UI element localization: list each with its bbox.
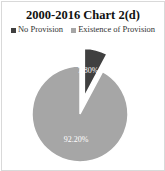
slice-label-existence-of-provision: 92.20% [64, 135, 89, 144]
slice-label-no-provision: 7.80% [78, 66, 99, 75]
pie-chart: 7.80% 92.20% [0, 0, 165, 171]
pie-slice-existence-of-provision [32, 66, 128, 162]
